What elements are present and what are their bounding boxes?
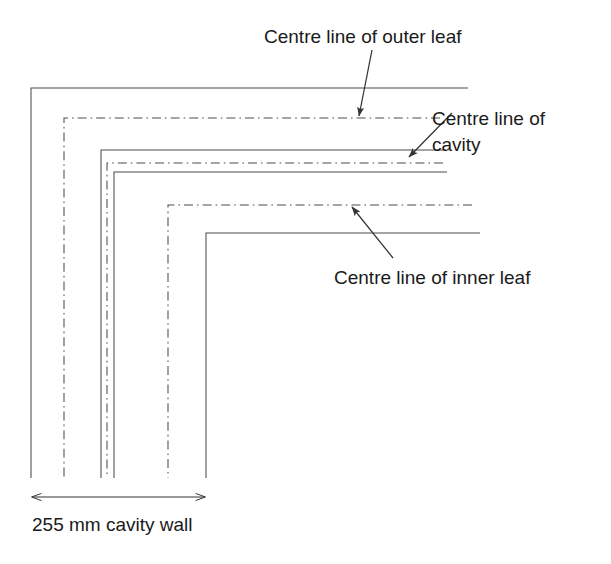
label-inner-leaf: Centre line of inner leaf xyxy=(334,267,531,288)
label-cavity-line-1: Centre line of xyxy=(432,108,546,129)
dimension-caption: 255 mm cavity wall xyxy=(32,514,193,535)
wall-line-inner-leaf-outer-face xyxy=(114,172,447,478)
wall-line-inner-leaf-centre-line xyxy=(168,205,472,478)
wall-line-outer-leaf-inner-face xyxy=(101,150,446,478)
wall-line-cavity-centre-line xyxy=(107,163,443,478)
outer-leaf-leader-line xyxy=(359,50,372,116)
label-cavity-line-2: cavity xyxy=(432,134,481,155)
diagram-canvas: Centre line of outer leaf Centre line of… xyxy=(0,0,611,564)
label-outer-leaf: Centre line of outer leaf xyxy=(264,26,462,47)
cavity-wall-corner-diagram: Centre line of outer leaf Centre line of… xyxy=(0,0,611,564)
